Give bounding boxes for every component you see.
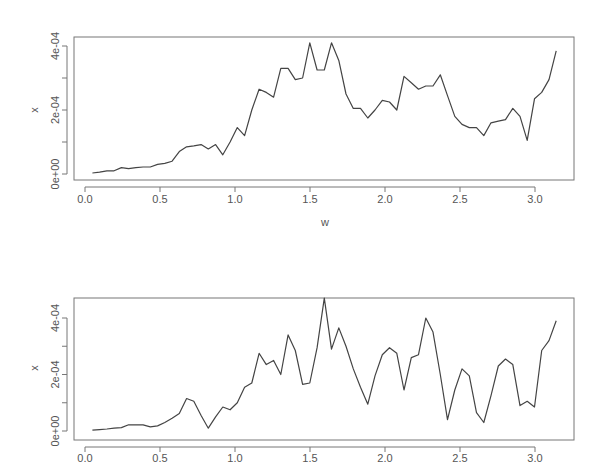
x-tick-label: 0.0	[77, 452, 92, 464]
y-tick-label: 0e+00	[49, 416, 61, 447]
bottom-plot: 0.00.51.01.52.02.53.0 0e+002e-044e-04 x	[28, 298, 574, 464]
y-tick-label: 2e-04	[49, 96, 61, 124]
bottom-x-axis: 0.00.51.01.52.02.53.0	[77, 447, 542, 464]
top-y-axis-label: x	[28, 107, 40, 113]
top-plot-frame	[74, 37, 574, 180]
x-tick-label: 0.5	[152, 452, 167, 464]
y-tick-label: 2e-04	[49, 360, 61, 388]
x-tick-label: 1.5	[302, 193, 317, 205]
figure: 0.00.51.01.52.02.53.0 0e+002e-044e-04 x …	[0, 0, 602, 468]
top-plot: 0.00.51.01.52.02.53.0 0e+002e-044e-04 x …	[28, 32, 574, 228]
x-tick-label: 0.5	[152, 193, 167, 205]
bottom-plot-frame	[74, 298, 574, 440]
x-tick-label: 2.0	[377, 193, 392, 205]
bottom-y-axis-label: x	[28, 365, 40, 371]
bottom-y-axis: 0e+002e-044e-04	[49, 304, 67, 447]
y-tick-label: 4e-04	[49, 32, 61, 60]
x-tick-label: 0.0	[77, 193, 92, 205]
y-tick-label: 4e-04	[49, 304, 61, 332]
y-tick-label: 0e+00	[49, 159, 61, 190]
x-tick-label: 1.5	[302, 452, 317, 464]
x-tick-label: 1.0	[227, 193, 242, 205]
x-tick-label: 3.0	[527, 452, 542, 464]
x-tick-label: 2.5	[452, 193, 467, 205]
top-series-line	[92, 43, 556, 173]
x-tick-label: 2.0	[377, 452, 392, 464]
bottom-series-line	[92, 298, 556, 430]
x-tick-label: 3.0	[527, 193, 542, 205]
top-x-axis-label: w	[320, 216, 329, 228]
top-x-axis: 0.00.51.01.52.02.53.0	[77, 187, 542, 205]
x-tick-label: 2.5	[452, 452, 467, 464]
x-tick-label: 1.0	[227, 452, 242, 464]
top-y-axis: 0e+002e-044e-04	[49, 32, 67, 190]
